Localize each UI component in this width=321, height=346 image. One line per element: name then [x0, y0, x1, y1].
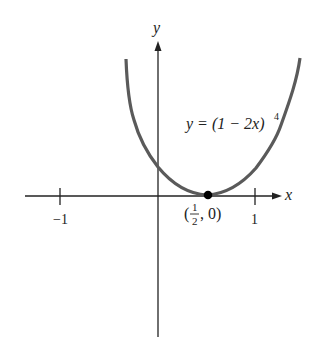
- vertex-point: [204, 191, 213, 200]
- svg-text:(: (: [184, 205, 189, 223]
- svg-text:4: 4: [274, 111, 279, 122]
- x-axis-label: x: [284, 186, 292, 203]
- svg-text:1: 1: [192, 201, 198, 213]
- function-graph: x y −1 1 ( 1 2 , 0) y = (1 − 2x) 4: [0, 0, 321, 346]
- y-axis-label: y: [151, 19, 161, 37]
- tick-label-neg1: −1: [53, 212, 68, 227]
- point-label: ( 1 2 , 0): [184, 201, 221, 227]
- svg-text:2: 2: [192, 215, 198, 227]
- svg-text:, 0): , 0): [200, 205, 221, 223]
- equation-label: y = (1 − 2x) 4: [184, 111, 279, 133]
- tick-label-pos1: 1: [251, 212, 258, 227]
- x-axis-arrow-icon: [272, 193, 282, 200]
- svg-text:y = (1 − 2x): y = (1 − 2x): [184, 115, 264, 133]
- y-axis-arrow-icon: [155, 41, 162, 51]
